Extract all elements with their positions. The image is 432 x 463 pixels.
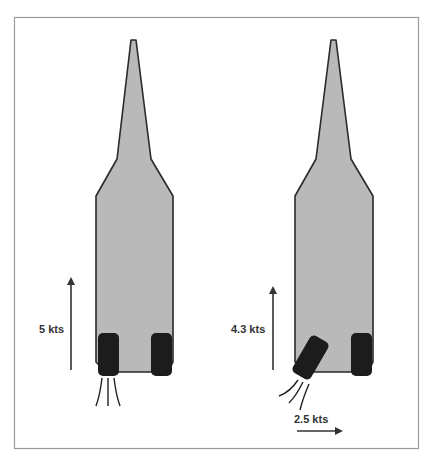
right-forward-speed-label: 4.3 kts <box>231 323 265 335</box>
left-tire-port <box>98 333 119 376</box>
left-forward-speed-label: 5 kts <box>39 323 64 335</box>
right-lateral-speed-label: 2.5 kts <box>294 413 328 425</box>
right-tire-starboard <box>351 333 372 376</box>
thrust-vector-diagram: 5 kts 4.3 kts 2.5 kts <box>0 0 432 463</box>
left-tire-starboard <box>151 333 172 376</box>
